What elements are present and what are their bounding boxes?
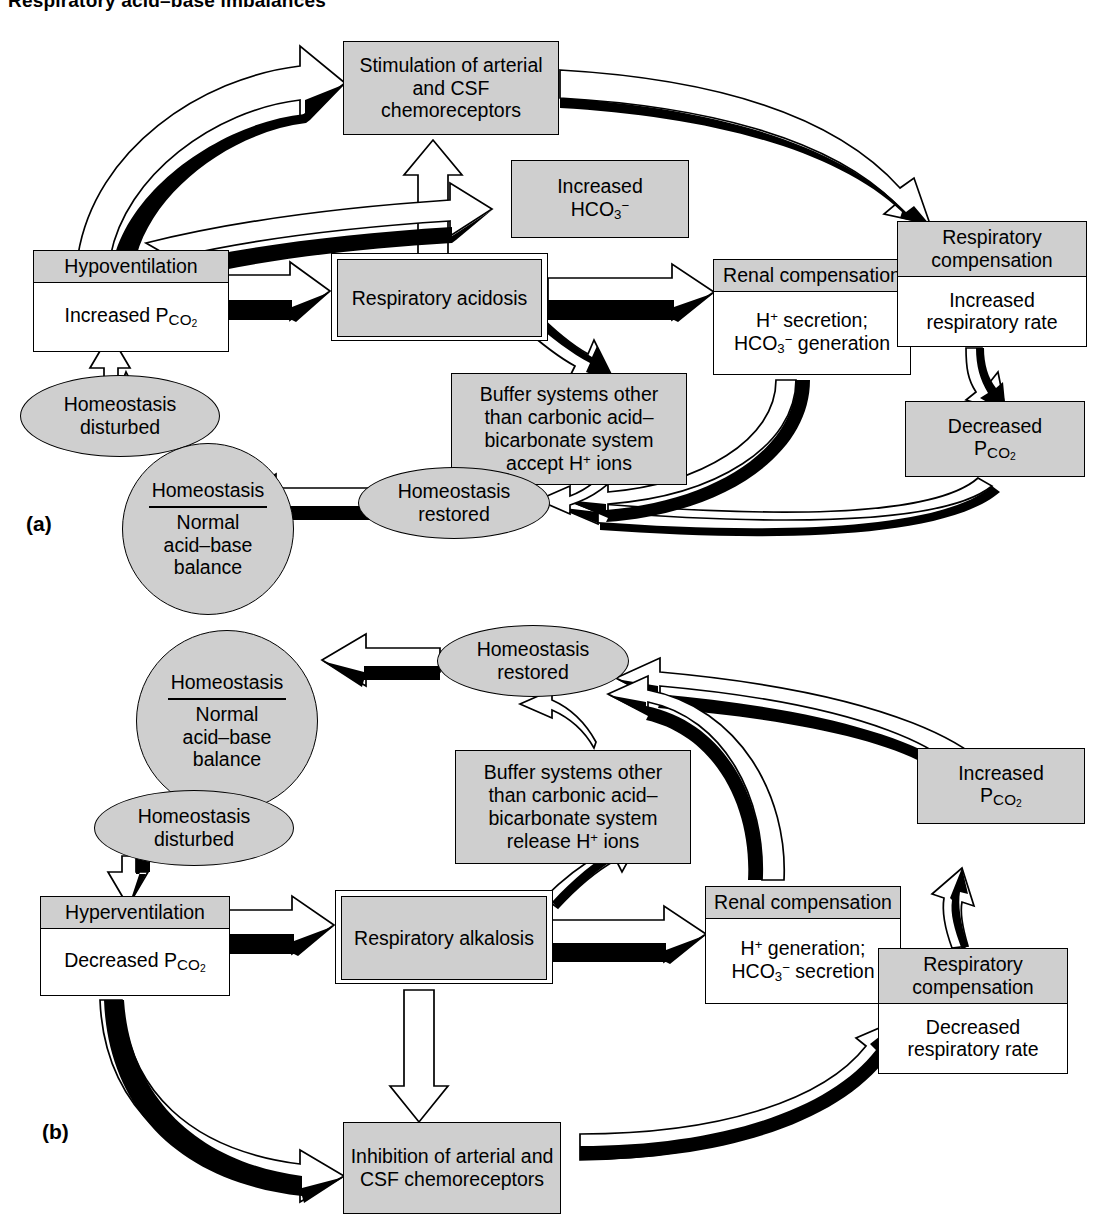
node-b-respiratory-alkalosis[interactable]: Respiratory alkalosis <box>335 890 553 984</box>
node-a-chemoreceptors-label: Stimulation of arterial and CSF chemorec… <box>349 54 553 122</box>
arrow-b-hyper-to-alkalosis <box>228 896 334 954</box>
node-b-buffer-systems[interactable]: Buffer systems other than carbonic acid–… <box>455 750 691 864</box>
arrow-a-hypo-to-acidosis <box>228 262 330 320</box>
node-a-homeostasis-circle-rule <box>149 506 267 508</box>
arrow-a-acidosis-to-renal <box>548 264 714 320</box>
node-b-homeostasis-circle-top: Homeostasis <box>171 671 284 696</box>
node-b-homeostasis-circle-body: Normal acid–base balance <box>183 703 272 771</box>
arrow-b-restored-to-circle-shadow <box>322 661 440 687</box>
arrow-b-restored-to-circle <box>322 634 440 686</box>
node-a-decreased-pco2-label: Decreased PCO2 <box>948 415 1042 464</box>
arrow-b-inhibition-to-respcomp-shadow <box>580 1022 898 1160</box>
node-b-respiratory-alkalosis-label: Respiratory alkalosis <box>354 927 534 950</box>
node-a-renal-compensation-body: H+ secretion;HCO3− generation <box>714 292 910 374</box>
node-a-respiratory-acidosis-label: Respiratory acidosis <box>352 287 528 310</box>
arrow-a-acidosis-to-hco3 <box>146 183 492 258</box>
node-b-homeostasis-circle[interactable]: Homeostasis Normal acid–base balance <box>136 630 318 812</box>
node-a-hypoventilation[interactable]: Hypoventilation Increased PCO2 <box>33 250 229 352</box>
node-a-respiratory-compensation[interactable]: Respiratory compensation Increased respi… <box>897 221 1087 347</box>
node-b-increased-pco2-label: Increased PCO2 <box>958 762 1044 811</box>
arrow-b-alkalosis-to-renal <box>552 906 706 962</box>
arrow-b-hyper-to-inhibition-shadow <box>104 1000 344 1203</box>
arrow-a-pco2-to-restored-shadow <box>556 486 1000 536</box>
panel-label-a: (a) <box>26 512 52 536</box>
node-b-respiratory-compensation[interactable]: Respiratory compensation Decreased respi… <box>878 948 1068 1074</box>
arrow-b-hyper-to-alkalosis-shadow <box>228 926 334 956</box>
node-a-homeostasis-restored-label: Homeostasisrestored <box>398 480 511 526</box>
node-a-homeostasis-circle[interactable]: Homeostasis Normal acid–base balance <box>122 443 294 615</box>
node-b-buffer-systems-label: Buffer systems other than carbonic acid–… <box>484 761 662 852</box>
node-b-increased-pco2[interactable]: Increased PCO2 <box>917 748 1085 824</box>
node-b-renal-compensation[interactable]: Renal compensation H+ generation;HCO3− s… <box>705 886 901 1004</box>
node-b-homeostasis-restored-label: Homeostasisrestored <box>477 638 590 684</box>
node-a-increased-bicarbonate-label: Increased HCO3− <box>557 175 643 222</box>
node-b-renal-compensation-head: Renal compensation <box>706 887 900 919</box>
node-a-respiratory-compensation-head: Respiratory compensation <box>898 222 1086 277</box>
panel-label-b: (b) <box>42 1120 69 1144</box>
node-a-respiratory-compensation-body: Increased respiratory rate <box>898 277 1086 346</box>
figure-title: Respiratory acid–base imbalances <box>8 0 326 12</box>
node-b-hyperventilation[interactable]: Hyperventilation Decreased PCO2 <box>40 896 230 996</box>
arrow-b-alkalosis-to-renal-shadow <box>552 935 706 964</box>
node-a-respiratory-acidosis-inner: Respiratory acidosis <box>337 259 542 337</box>
node-b-respiratory-compensation-head: Respiratory compensation <box>879 949 1067 1004</box>
arrow-a-hypo-to-acidosis-shadow <box>228 292 330 322</box>
arrow-b-buffer-to-restored <box>520 690 596 748</box>
node-a-renal-compensation-head: Renal compensation <box>714 260 910 292</box>
node-b-homeostasis-circle-rule <box>168 698 286 700</box>
arrow-a-acidosis-to-chemo <box>404 140 462 268</box>
node-a-hypoventilation-head: Hypoventilation <box>34 251 228 283</box>
arrow-b-respcomp-to-pco2 <box>932 868 974 948</box>
node-b-homeostasis-disturbed-label: Homeostasisdisturbed <box>138 805 251 851</box>
node-a-homeostasis-circle-body: Normal acid–base balance <box>164 511 253 579</box>
arrow-b-inhibition-to-respcomp <box>580 1020 898 1160</box>
node-b-chemoreceptors[interactable]: Inhibition of arterial and CSF chemorece… <box>343 1122 561 1214</box>
arrow-b-hyper-to-inhibition <box>100 1000 344 1202</box>
node-a-homeostasis-disturbed-label: Homeostasisdisturbed <box>64 393 177 439</box>
node-a-buffer-systems-label: Buffer systems other than carbonic acid–… <box>480 383 658 474</box>
arrow-b-alkalosis-to-inhibition <box>390 990 448 1122</box>
node-b-respiratory-compensation-body: Decreased respiratory rate <box>879 1004 1067 1073</box>
arrow-a-hypo-to-chemo-shadow <box>113 84 345 266</box>
arrow-a-acidosis-to-renal-shadow <box>548 293 714 322</box>
node-b-hyperventilation-head: Hyperventilation <box>41 897 229 929</box>
node-a-renal-compensation[interactable]: Renal compensation H+ secretion;HCO3− ge… <box>713 259 911 375</box>
node-a-increased-bicarbonate[interactable]: Increased HCO3− <box>511 160 689 238</box>
arrow-a-hypo-to-chemo <box>78 46 345 258</box>
figure-canvas: Respiratory acid–base imbalances <box>0 0 1103 1225</box>
node-b-respiratory-alkalosis-inner: Respiratory alkalosis <box>341 896 547 980</box>
node-b-renal-compensation-body: H+ generation;HCO3− secretion <box>706 919 900 1003</box>
node-a-respiratory-acidosis[interactable]: Respiratory acidosis <box>331 253 548 341</box>
node-a-homeostasis-circle-top: Homeostasis <box>152 479 265 504</box>
node-b-homeostasis-restored[interactable]: Homeostasisrestored <box>437 625 629 697</box>
node-a-chemoreceptors[interactable]: Stimulation of arterial and CSF chemorec… <box>343 41 559 135</box>
node-b-chemoreceptors-label: Inhibition of arterial and CSF chemorece… <box>349 1145 555 1191</box>
node-a-hypoventilation-body: Increased PCO2 <box>34 283 228 351</box>
node-b-hyperventilation-body: Decreased PCO2 <box>41 929 229 995</box>
node-b-homeostasis-disturbed[interactable]: Homeostasisdisturbed <box>94 790 294 866</box>
node-a-decreased-pco2[interactable]: Decreased PCO2 <box>905 401 1085 477</box>
node-a-homeostasis-restored[interactable]: Homeostasisrestored <box>358 467 550 539</box>
arrow-b-respcomp-to-pco2-shadow <box>950 868 968 950</box>
